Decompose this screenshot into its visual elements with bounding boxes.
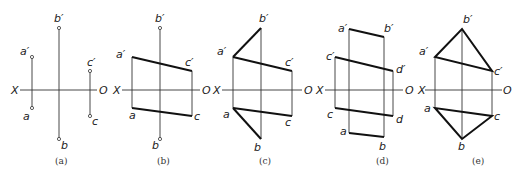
panel-d: X O a′ b′ c′ d′ c d a b (d) [315,22,414,166]
label-c: c [92,115,98,128]
panel-a: X O a′ a b′ b c′ c (a) [10,12,108,166]
label-c: c [194,110,200,123]
label-c: c [327,108,333,121]
point-c-prime [88,69,91,72]
line-a-b [349,133,384,137]
label-b: b [458,140,465,153]
line-a-c [132,108,192,116]
axis-label-o: O [304,84,313,97]
label-b: b [152,139,159,152]
axis-label-x: X [315,84,324,97]
label-c-prime: c′ [87,56,96,69]
panel-b: X O a′ a b′ b c′ c (b) [112,12,211,166]
label-c-prime: c′ [185,56,194,69]
line-a-b [233,108,261,139]
label-a-prime: a′ [116,48,126,61]
caption-e: (e) [472,156,484,166]
label-c: c [285,116,291,129]
label-b: b [379,140,386,153]
label-a: a [340,125,347,138]
axis-label-x: X [112,84,121,97]
label-c-prime: c′ [494,65,503,78]
label-a-prime: a′ [338,22,348,35]
label-c: c [494,110,500,123]
point-b-prime [158,26,161,29]
label-a-prime: a′ [20,45,30,58]
point-b-prime [57,26,60,29]
caption-c: (c) [259,156,271,166]
label-a: a [223,108,230,121]
point-a [30,106,33,109]
label-a: a [129,109,136,122]
label-b-prime: b′ [463,13,473,26]
line-a-c [233,108,292,116]
label-a: a [424,102,431,115]
axis-label-o: O [503,84,512,97]
axis-label-o: O [405,84,414,97]
label-c-prime: c′ [326,50,335,63]
label-d-prime: d′ [396,63,406,76]
label-c-prime: c′ [285,56,294,69]
line-a-prime-c-prime [132,57,192,71]
axis-label-x: X [10,84,19,97]
caption-d: (d) [376,156,389,166]
panel-c: X O a′ a b′ b c′ c (c) [212,12,313,166]
line-a-prime-b-prime [349,29,384,37]
label-b-prime: b′ [384,22,394,35]
line-a-prime-c-prime [233,57,292,71]
label-b-prime: b′ [259,12,269,25]
panel-e: X O a′ a b′ b c′ c (e) [417,13,512,166]
triangle-top-view [435,108,492,139]
axis-label-x: X [417,84,426,97]
point-a-prime [30,55,33,58]
label-b: b [61,139,68,152]
axis-label-x: X [212,84,221,97]
axis-label-o: O [202,84,211,97]
label-a: a [23,110,30,123]
label-b-prime: b′ [155,12,165,25]
triangle-front-view [435,29,492,71]
axis-label-o: O [99,84,108,97]
label-b: b [254,141,261,154]
line-a-prime-b-prime [233,28,261,57]
caption-b: (b) [157,156,170,166]
label-a-prime: a′ [217,45,227,58]
label-d: d [396,113,404,126]
projection-diagram: X O a′ a b′ b c′ c (a) X O a′ a b′ b [0,0,517,179]
caption-a: (a) [55,156,67,166]
label-a-prime: a′ [419,45,429,58]
label-b-prime: b′ [54,12,64,25]
